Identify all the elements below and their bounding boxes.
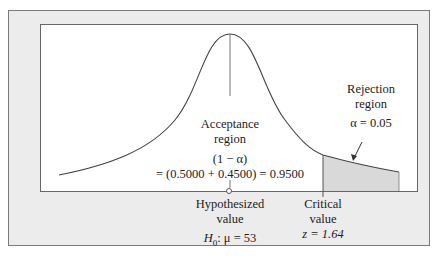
critical-line1: Critical [296,197,350,212]
rejection-alpha: α = 0.05 [336,116,406,131]
acceptance-formula-line2: = (0.5000 + 0.4500) = 0.9500 [150,167,310,182]
acceptance-label: Acceptance region [190,117,270,147]
critical-line2: value [296,212,350,227]
acceptance-formula-line1: (1 − α) [150,152,310,167]
rejection-label: Rejection region α = 0.05 [336,82,406,131]
rejection-region-shade [323,155,399,191]
h0-rest: : μ = 53 [217,231,256,245]
acceptance-formula: (1 − α) = (0.5000 + 0.4500) = 0.9500 [150,152,310,182]
acceptance-title-line1: Acceptance [190,117,270,132]
critical-z: z = 1.64 [296,227,350,242]
hypothesized-line1: Hypothesized [180,197,280,212]
critical-label: Critical value z = 1.64 [296,197,350,242]
hypothesized-line2: value [180,212,280,227]
rejection-title-line2: region [336,97,406,112]
acceptance-title-line2: region [190,132,270,147]
rejection-title-line1: Rejection [336,82,406,97]
hypothesized-label: Hypothesized value H0: μ = 53 [180,197,280,251]
h0-statement: H0: μ = 53 [180,231,280,251]
hypothesized-marker [227,189,232,194]
h0-symbol: H [204,231,213,245]
